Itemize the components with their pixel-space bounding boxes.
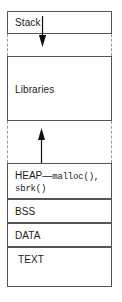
memory-layout-diagram: Stack Libraries HEAP—malloc(), sbrk() BS… [0,0,122,302]
segment-heap-sbrk-code: sbrk() [15,184,46,194]
gap-stack-libraries-left-rail [7,34,8,56]
segment-heap-label-line-2: sbrk() [15,182,46,195]
gap-stack-libraries-right-rail [111,34,112,56]
gap-libraries-heap-right-rail [111,121,112,163]
segment-heap: HEAP—malloc(), sbrk() [7,163,112,199]
segment-libraries-label: Libraries [15,84,54,95]
segment-heap-separator: — [42,170,52,181]
segment-data-label: DATA [15,230,41,241]
segment-stack: Stack [7,11,112,34]
segment-text: TEXT [7,247,112,287]
segment-bss: BSS [7,199,112,223]
segment-heap-label: HEAP [15,170,42,181]
segment-data: DATA [7,223,112,247]
segment-heap-malloc-code: malloc(), [52,172,99,182]
stack-grow-down-arrow-icon [36,16,50,48]
gap-libraries-heap-left-rail [7,121,8,163]
segment-libraries: Libraries [7,56,112,121]
segment-text-label: TEXT [18,254,44,265]
segment-bss-label: BSS [15,206,35,217]
